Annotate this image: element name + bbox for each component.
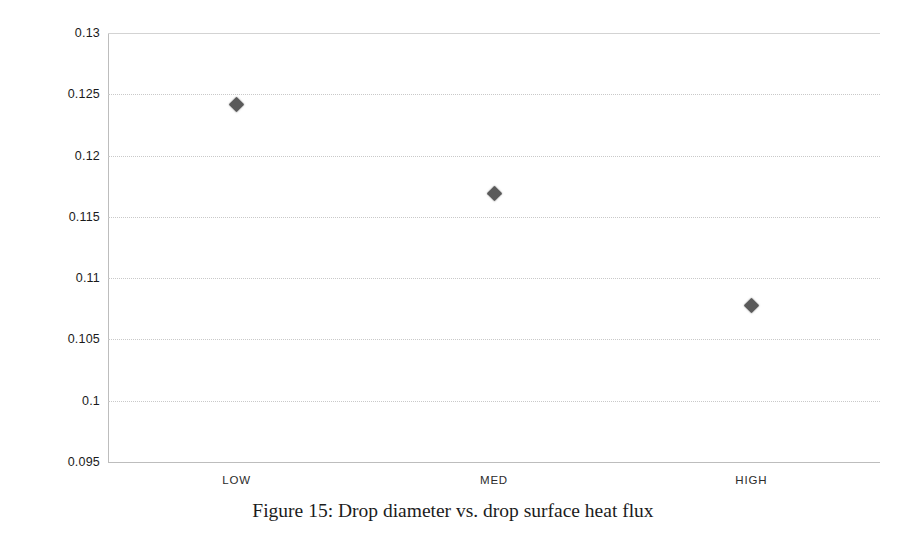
gridline-0.105 — [108, 339, 880, 340]
y-axis-tick-labels: 0.130.1250.120.1150.110.1050.10.095 — [0, 33, 100, 462]
y-tick-label: 0.12 — [8, 149, 100, 163]
figure-caption: Figure 15: Drop diameter vs. drop surfac… — [0, 500, 906, 522]
y-tick-label: 0.115 — [8, 210, 100, 224]
gridline-0.13 — [108, 33, 880, 34]
gridline-0.095 — [108, 462, 880, 463]
y-tick-label: 0.125 — [8, 87, 100, 101]
figure-container: 0.130.1250.120.1150.110.1050.10.095 Bead… — [0, 0, 906, 535]
x-axis-tick-labels: LOWMEDHIGH — [108, 474, 880, 496]
chart-plot-area — [108, 33, 880, 462]
y-tick-label: 0.105 — [8, 332, 100, 346]
y-tick-label: 0.095 — [8, 455, 100, 469]
x-tick-label-high: HIGH — [681, 474, 821, 486]
y-axis-line — [108, 33, 109, 462]
x-tick-label-low: LOW — [167, 474, 307, 486]
gridline-0.115 — [108, 217, 880, 218]
gridline-0.1 — [108, 401, 880, 402]
gridline-0.125 — [108, 94, 880, 95]
y-tick-label: 0.1 — [8, 394, 100, 408]
x-tick-label-med: MED — [424, 474, 564, 486]
gridline-0.11 — [108, 278, 880, 279]
gridline-0.12 — [108, 156, 880, 157]
y-tick-label: 0.11 — [8, 271, 100, 285]
y-tick-label: 0.13 — [8, 26, 100, 40]
